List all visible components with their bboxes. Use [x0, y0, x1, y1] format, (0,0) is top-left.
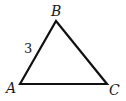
triangle-diagram: B 3 A C	[0, 0, 126, 101]
vertex-label-c: C	[109, 82, 120, 98]
vertex-label-b: B	[50, 3, 61, 19]
vertex-label-a: A	[4, 80, 16, 96]
triangle-abc	[20, 21, 107, 84]
side-label-ab: 3	[24, 41, 32, 56]
